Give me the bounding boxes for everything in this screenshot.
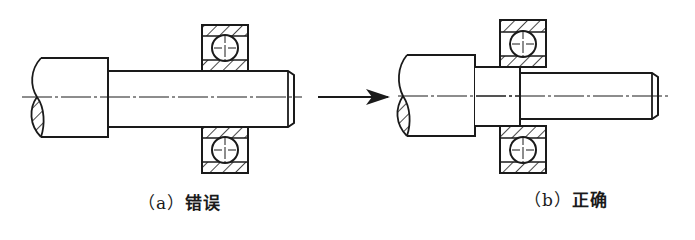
panel-a-wrong bbox=[22, 25, 302, 173]
caption-a: （a）错误 bbox=[138, 189, 221, 214]
bearing-top bbox=[500, 20, 546, 67]
caption-a-word: 错误 bbox=[185, 193, 221, 213]
caption-a-tag: （a） bbox=[138, 193, 185, 213]
caption-b: （b）正确 bbox=[524, 186, 608, 211]
caption-b-word: 正确 bbox=[572, 190, 608, 210]
bearing-bottom bbox=[202, 127, 248, 173]
caption-b-tag: （b） bbox=[524, 190, 572, 210]
bearing-bottom bbox=[500, 126, 546, 173]
bearing-top bbox=[202, 25, 248, 71]
small-shaft bbox=[108, 71, 294, 127]
panel-b-correct bbox=[397, 20, 670, 173]
